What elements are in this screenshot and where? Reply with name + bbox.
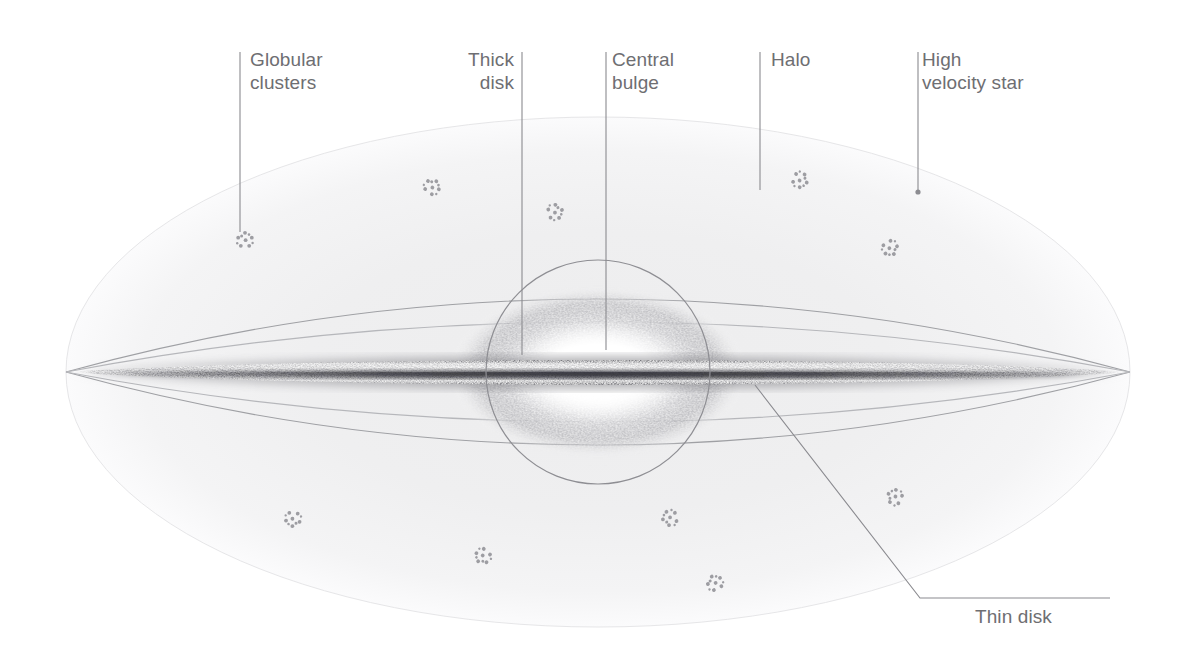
label-globular-clusters: Globular clusters	[250, 48, 323, 94]
label-thick-disk: Thick disk	[404, 48, 514, 94]
label-central-bulge: Central bulge	[612, 48, 674, 94]
label-halo: Halo	[771, 48, 810, 71]
galaxy-illustration	[0, 0, 1183, 655]
label-thin-disk: Thin disk	[975, 605, 1052, 628]
label-high-velocity-star: High velocity star	[922, 48, 1024, 94]
diagram-canvas: Globular clusters Thick disk Central bul…	[0, 0, 1183, 655]
